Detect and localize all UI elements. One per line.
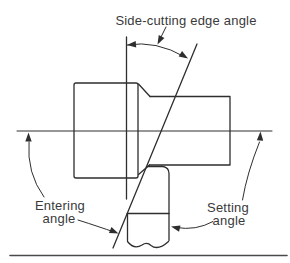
tool-break-line: [128, 242, 169, 248]
label-side-cutting-edge-angle: Side-cutting edge angle: [115, 13, 256, 28]
tool-angle-diagram: Side-cutting edge angle Entering angle S…: [0, 0, 290, 263]
arc-arrowhead-left-icon: [127, 41, 137, 48]
title-leader-arrowhead-icon: [155, 35, 165, 46]
setting-arrowhead-up-icon: [257, 131, 264, 140]
tool-body-outline: [147, 167, 170, 241]
label-setting-angle-line2: angle: [213, 213, 246, 228]
entering-leader-lower: [78, 220, 114, 232]
setting-arrowhead-left-icon: [170, 223, 180, 231]
cutting-edge-line: [113, 44, 197, 248]
diagram-canvas: Side-cutting edge angle Entering angle S…: [0, 0, 290, 263]
entering-arrowhead-up-icon: [25, 133, 31, 142]
arc-arrowhead-right-icon: [179, 51, 190, 61]
workpiece-top-chamfer: [139, 84, 151, 97]
setting-leader-upper: [243, 142, 260, 200]
label-entering-angle-line2: angle: [43, 211, 76, 226]
entering-leader-upper: [29, 142, 44, 197]
setting-leader-lower: [176, 222, 213, 229]
